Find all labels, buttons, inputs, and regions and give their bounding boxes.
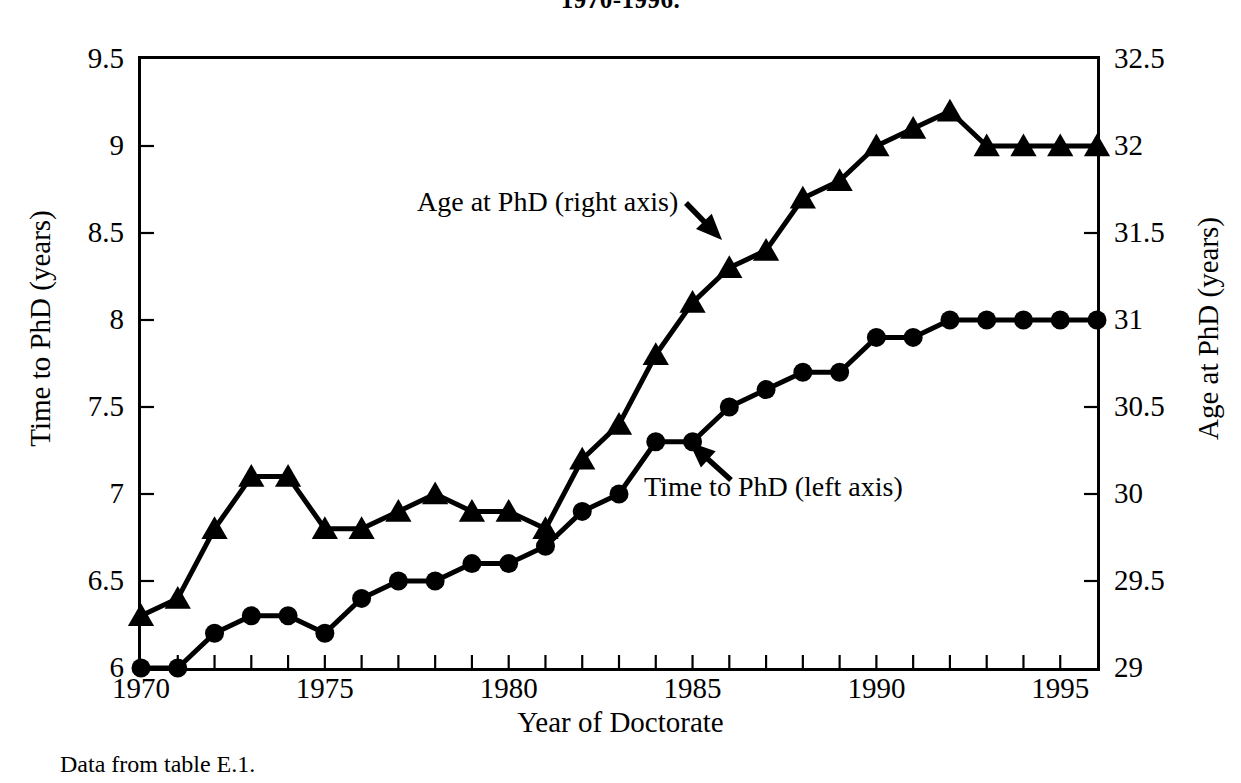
data-point-circle: [389, 572, 408, 591]
data-point-triangle: [716, 255, 742, 278]
data-point-circle: [793, 363, 812, 382]
data-point-triangle: [937, 99, 963, 122]
y-axis-left-tick-label: 7: [0, 479, 124, 508]
data-point-circle: [573, 502, 592, 521]
data-point-triangle: [422, 482, 448, 505]
annotation-time-to-phd: Time to PhD (left axis): [644, 471, 903, 503]
data-point-circle: [499, 554, 518, 573]
data-point-circle: [279, 606, 298, 625]
data-point-circle: [720, 398, 739, 417]
y-axis-right-tick-label: 29: [1114, 653, 1234, 682]
data-point-circle: [1088, 311, 1107, 330]
y-axis-left-tick-label: 7.5: [0, 392, 124, 421]
data-point-triangle: [863, 134, 889, 157]
annotation-age-at-phd: Age at PhD (right axis): [417, 186, 678, 218]
y-axis-right-tick-label: 29.5: [1114, 566, 1234, 595]
x-axis-tick-label: 1975: [265, 674, 385, 703]
x-axis-tick-label: 1995: [1000, 674, 1120, 703]
chart-figure: 1970-1996. 66.577.588.599.52929.53030.53…: [0, 0, 1241, 783]
data-point-circle: [830, 363, 849, 382]
data-point-triangle: [790, 186, 816, 209]
data-point-circle: [610, 485, 629, 504]
data-point-circle: [242, 606, 261, 625]
data-point-circle: [315, 624, 334, 643]
plot-area: [138, 56, 1100, 671]
x-axis-tick-label: 1980: [449, 674, 569, 703]
x-axis-tick-label: 1985: [633, 674, 753, 703]
y-axis-left-tick-label: 8: [0, 305, 124, 334]
data-point-triangle: [532, 516, 558, 539]
x-axis-tick-label: 1970: [81, 674, 201, 703]
x-axis-tick-label: 1990: [816, 674, 936, 703]
y-axis-right-title: Age at PhD (years): [1192, 129, 1225, 529]
data-point-circle: [977, 311, 996, 330]
data-point-circle: [352, 589, 371, 608]
y-axis-left-tick-label: 9: [0, 131, 124, 160]
data-point-circle: [757, 380, 776, 399]
data-point-circle: [1051, 311, 1070, 330]
chart-title: 1970-1996.: [0, 0, 1241, 14]
y-axis-left-tick-label: 6.5: [0, 566, 124, 595]
y-axis-left-tick-label: 9.5: [0, 44, 124, 73]
data-point-circle: [904, 328, 923, 347]
y-axis-right-tick-label: 32.5: [1114, 44, 1234, 73]
data-point-triangle: [900, 116, 926, 139]
source-footnote: Data from table E.1.: [60, 751, 255, 778]
data-point-circle: [867, 328, 886, 347]
data-point-circle: [646, 432, 665, 451]
data-point-circle: [940, 311, 959, 330]
y-axis-left-title: Time to PhD (years): [24, 129, 57, 529]
data-point-circle: [426, 572, 445, 591]
data-point-circle: [1014, 311, 1033, 330]
data-point-triangle: [606, 412, 632, 435]
x-axis-title: Year of Doctorate: [0, 706, 1241, 739]
data-point-triangle: [165, 586, 191, 609]
data-point-circle: [205, 624, 224, 643]
series-layer: [141, 59, 1097, 668]
data-point-triangle: [128, 603, 154, 626]
data-point-circle: [462, 554, 481, 573]
data-point-circle: [683, 432, 702, 451]
data-point-circle: [536, 537, 555, 556]
data-point-triangle: [385, 499, 411, 522]
y-axis-left-tick-label: 8.5: [0, 218, 124, 247]
